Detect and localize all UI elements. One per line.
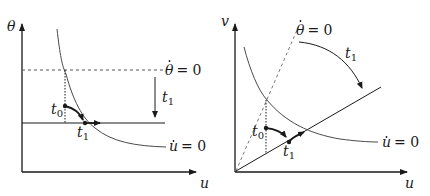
trajectory-right-segment-2 xyxy=(289,132,304,142)
v-axis-label: v xyxy=(221,13,229,29)
rotation-label: t1 xyxy=(345,45,357,63)
trajectory-right-segment-1 xyxy=(266,128,286,137)
theta-dot-mark-right xyxy=(300,20,302,22)
label-t1-right: t1 xyxy=(283,143,295,161)
shift-label: t1 xyxy=(162,89,174,107)
u-nullcline-label: u= 0 xyxy=(169,138,206,154)
u-dot-mark-right xyxy=(386,136,388,138)
left-panel: θ u t1 θ= 0 u= 0 t0 t1 xyxy=(7,18,209,191)
theta-nullcline-label: θ= 0 xyxy=(165,62,202,78)
point-t0 xyxy=(63,104,67,108)
label-t0: t0 xyxy=(51,101,63,119)
trajectory-segment-1 xyxy=(65,106,83,120)
u-nullcline-label-right: u= 0 xyxy=(382,134,419,150)
rotation-arrow xyxy=(299,42,362,88)
label-t1: t1 xyxy=(77,124,89,142)
point-t1 xyxy=(83,121,87,125)
u-nullcline-curve xyxy=(57,29,166,147)
label-t0-right: t0 xyxy=(252,123,264,141)
right-panel: v u t1 θ= 0 u= 0 t0 t1 xyxy=(221,13,419,191)
theta-axis-label: θ xyxy=(7,18,16,34)
u-axis-label: u xyxy=(200,175,209,191)
u-axis-label-right: u xyxy=(405,175,414,191)
theta-ray-rotated xyxy=(236,87,381,171)
phase-plane-diagram: θ u t1 θ= 0 u= 0 t0 t1 v u xyxy=(0,0,430,196)
theta-dot-mark xyxy=(169,60,171,62)
theta-nullcline-label-right: θ= 0 xyxy=(296,22,333,38)
point-t0-right xyxy=(264,126,268,130)
u-dot-mark xyxy=(173,140,175,142)
